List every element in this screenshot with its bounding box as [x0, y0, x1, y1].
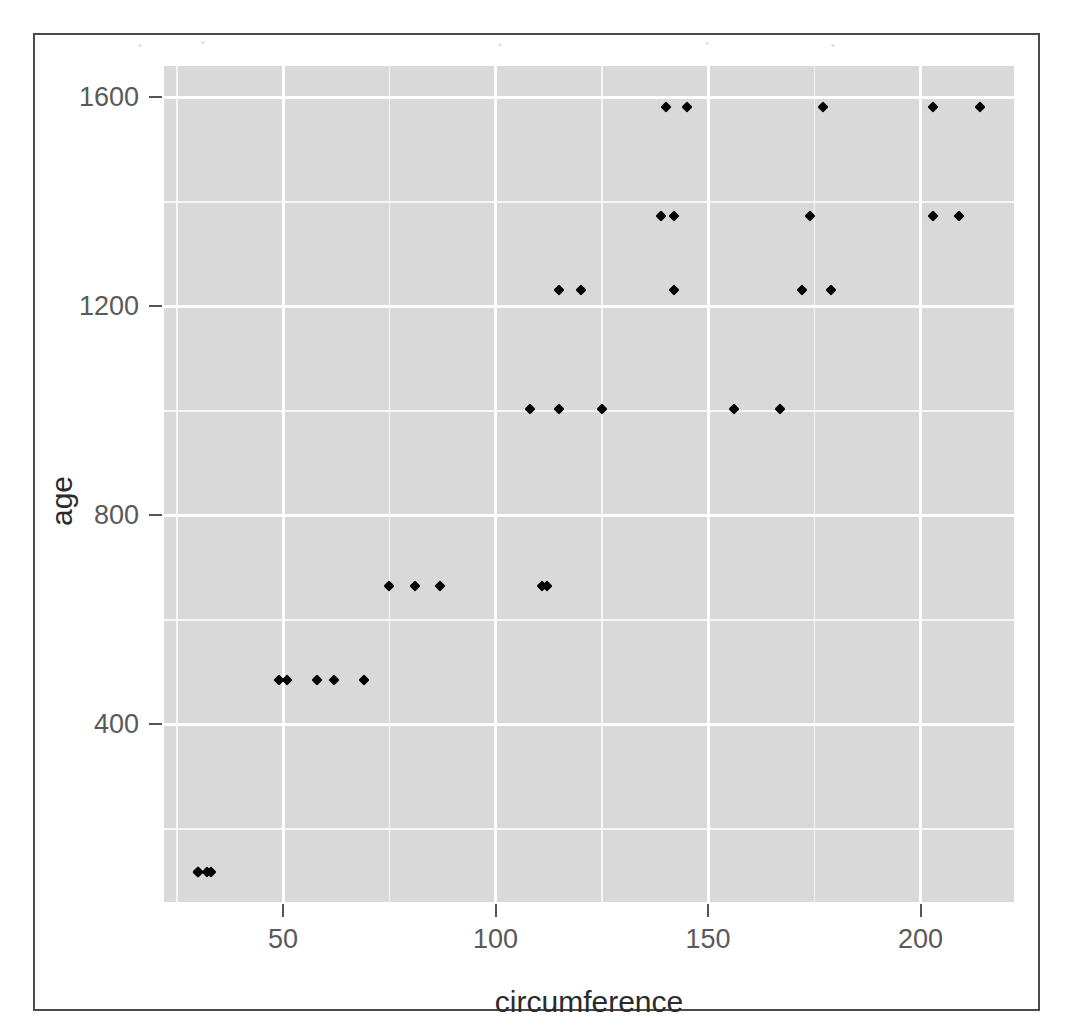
- data-point: [817, 101, 828, 112]
- figure-frame: 1600120080040050100150200 age circumfere…: [33, 33, 1040, 1011]
- data-point: [435, 581, 446, 592]
- data-point: [358, 675, 369, 686]
- data-point: [826, 284, 837, 295]
- data-point: [974, 101, 985, 112]
- x-axis-tick-label: 150: [685, 924, 730, 955]
- data-point: [668, 211, 679, 222]
- gridline-minor-horizontal: [164, 410, 1014, 412]
- data-point: [796, 284, 807, 295]
- data-point: [554, 284, 565, 295]
- data-point: [953, 211, 964, 222]
- gridline-major-vertical: [282, 66, 285, 902]
- gridline-minor-horizontal: [164, 828, 1014, 830]
- y-axis-tick-mark: [149, 514, 162, 516]
- x-axis-title: circumference: [164, 985, 1014, 1019]
- data-point: [596, 403, 607, 414]
- y-axis-tick-label: 400: [19, 709, 139, 740]
- data-point: [668, 284, 679, 295]
- y-axis-tick-mark: [149, 723, 162, 725]
- y-axis-tick-label: 1600: [19, 82, 139, 113]
- scatter-plot: 1600120080040050100150200 age circumfere…: [35, 35, 1042, 1013]
- x-axis-tick-mark: [920, 904, 922, 917]
- x-axis-tick-label: 50: [268, 924, 298, 955]
- x-axis-tick-mark: [495, 904, 497, 917]
- data-point: [409, 581, 420, 592]
- x-axis-tick-label: 200: [898, 924, 943, 955]
- data-point: [524, 403, 535, 414]
- data-point: [192, 866, 203, 877]
- data-point: [728, 403, 739, 414]
- scan-artifact: [95, 37, 995, 51]
- x-axis-tick-label: 100: [473, 924, 518, 955]
- gridline-minor-horizontal: [164, 201, 1014, 203]
- data-point: [575, 284, 586, 295]
- y-axis-title: age: [45, 421, 79, 581]
- gridline-major-vertical: [494, 66, 497, 902]
- gridline-minor-vertical: [601, 66, 603, 902]
- data-point: [928, 211, 939, 222]
- y-axis-tick-label: 1200: [19, 291, 139, 322]
- gridline-major-horizontal: [164, 723, 1014, 726]
- data-point: [928, 101, 939, 112]
- data-point: [554, 403, 565, 414]
- gridline-major-vertical: [707, 66, 710, 902]
- x-axis-tick-mark: [707, 904, 709, 917]
- x-axis-tick-mark: [282, 904, 284, 917]
- y-axis-tick-mark: [149, 305, 162, 307]
- gridline-major-vertical: [919, 66, 922, 902]
- plot-panel: [164, 66, 1014, 902]
- data-point: [775, 403, 786, 414]
- gridline-major-horizontal: [164, 96, 1014, 99]
- gridline-minor-vertical: [814, 66, 816, 902]
- gridline-major-horizontal: [164, 305, 1014, 308]
- gridline-minor-vertical: [176, 66, 178, 902]
- data-point: [660, 101, 671, 112]
- y-axis-tick-mark: [149, 96, 162, 98]
- data-point: [656, 211, 667, 222]
- gridline-minor-vertical: [389, 66, 391, 902]
- data-point: [681, 101, 692, 112]
- gridline-minor-horizontal: [164, 619, 1014, 621]
- data-point: [384, 581, 395, 592]
- data-point: [328, 675, 339, 686]
- gridline-major-horizontal: [164, 514, 1014, 517]
- data-point: [311, 675, 322, 686]
- y-axis-tick-label: 800: [19, 500, 139, 531]
